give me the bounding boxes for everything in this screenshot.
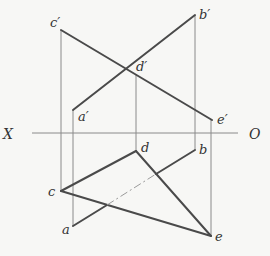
label-e-prime: e′ — [217, 112, 228, 127]
line-c-d — [61, 151, 136, 191]
label-e: e — [215, 229, 223, 244]
label-a-prime: a′ — [78, 109, 89, 124]
line-a-b-visible-upper — [156, 150, 195, 174]
label-b: b — [199, 142, 207, 157]
label-axis-x: X — [2, 126, 14, 142]
line-a-b-visible-lower — [73, 205, 107, 226]
label-c-prime: c′ — [50, 15, 60, 30]
label-d-prime: d′ — [136, 59, 147, 74]
label-c: c — [48, 184, 56, 199]
diagram-svg: c′ b′ d′ a′ e′ X O c a d b e — [0, 0, 270, 256]
line-a-b-hidden — [107, 174, 156, 205]
line-a-prime-b-prime — [73, 15, 195, 110]
label-axis-o: O — [249, 126, 261, 142]
label-d: d — [141, 140, 149, 155]
projection-diagram: c′ b′ d′ a′ e′ X O c a d b e — [0, 0, 270, 256]
label-a: a — [62, 222, 70, 237]
label-b-prime: b′ — [199, 7, 210, 22]
line-c-e — [61, 191, 211, 236]
